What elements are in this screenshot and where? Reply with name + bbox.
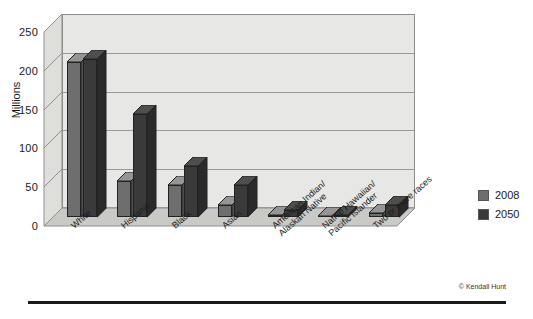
bar-front-face <box>83 59 97 217</box>
legend-swatch-2050 <box>478 209 489 220</box>
bar-side-face <box>198 157 209 219</box>
bar-front-face <box>67 62 81 217</box>
legend-item-2008: 2008 <box>478 189 519 201</box>
gridline-100 <box>63 130 415 131</box>
bar-2050-0 <box>83 50 97 217</box>
bar-side-face <box>97 50 108 219</box>
bar-side-face <box>147 105 158 219</box>
legend-item-2050: 2050 <box>478 208 519 220</box>
y-tick-50: 50 <box>4 181 38 193</box>
bar-2008-2 <box>168 176 182 217</box>
bar-2008-1 <box>117 172 131 217</box>
y-tick-100: 100 <box>4 142 38 154</box>
y-tick-0: 0 <box>4 220 38 232</box>
copyright-credit: © Kendall Hunt <box>459 283 506 290</box>
chart-legend: 2008 2050 <box>478 189 519 227</box>
gridline-200 <box>63 53 415 54</box>
bar-side-face <box>248 176 259 219</box>
gridline-150 <box>63 92 415 93</box>
bar-front-face <box>117 181 131 217</box>
bar-2008-0 <box>67 53 81 217</box>
bottom-divider <box>28 301 506 304</box>
legend-label-2008: 2008 <box>495 189 519 201</box>
legend-swatch-2008 <box>478 190 489 201</box>
gridline-50 <box>63 169 415 170</box>
y-axis-label: Millions <box>10 65 22 135</box>
population-projection-bar-chart: 250 200 150 100 50 0 Millions WhiteHispa… <box>0 0 533 319</box>
bar-front-face <box>168 185 182 217</box>
y-tick-250: 250 <box>4 26 38 38</box>
legend-label-2050: 2050 <box>495 208 519 220</box>
